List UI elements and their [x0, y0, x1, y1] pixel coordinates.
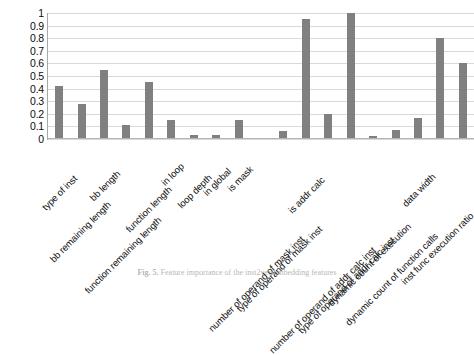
bar	[235, 120, 243, 139]
y-axis-tick-label: 0	[0, 134, 44, 145]
bar	[55, 86, 63, 139]
bar-slot	[115, 13, 137, 139]
bar	[459, 63, 467, 139]
y-axis-tick-label: 0.1	[0, 121, 44, 132]
x-axis-category-label: in loop	[160, 161, 186, 187]
bar-series	[48, 13, 474, 139]
x-axis-category-label: type of inst	[41, 174, 80, 213]
bar	[78, 104, 86, 139]
bar-slot	[160, 13, 182, 139]
y-axis-tick-label: 0.9	[0, 20, 44, 31]
figure-caption: Fig. 5. Feature importance of the inst2v…	[0, 268, 474, 281]
x-axis-category-label: data width	[400, 172, 437, 209]
bar-slot	[70, 13, 92, 139]
caption-prefix: Fig. 5.	[137, 268, 158, 277]
bar	[100, 70, 108, 139]
bar-slot	[452, 13, 474, 139]
bar	[414, 118, 422, 139]
bar-slot	[227, 13, 249, 139]
y-axis-tick-label: 0.2	[0, 109, 44, 120]
bar	[347, 13, 355, 139]
bar	[122, 125, 130, 139]
bar-slot	[93, 13, 115, 139]
bar-slot	[183, 13, 205, 139]
x-axis-category-label: is addr calc	[286, 175, 326, 215]
bar	[324, 114, 332, 139]
bar-slot	[295, 13, 317, 139]
y-axis-tick-label: 0.6	[0, 58, 44, 69]
plot-area	[48, 13, 474, 139]
bar	[302, 19, 310, 139]
y-axis-tick-label: 0.8	[0, 33, 44, 44]
bar-slot	[205, 13, 227, 139]
bar-slot	[339, 13, 361, 139]
y-axis-tick-label: 0.7	[0, 46, 44, 57]
x-axis-category-label: is mask	[226, 164, 255, 193]
caption-text: Feature importance of the inst2vec embed…	[161, 268, 337, 277]
bar-slot	[272, 13, 294, 139]
bar-slot	[407, 13, 429, 139]
x-axis-category-label: bb length	[88, 169, 122, 203]
bar-slot	[429, 13, 451, 139]
bar	[436, 38, 444, 139]
bar-slot	[250, 13, 272, 139]
bar-slot	[48, 13, 70, 139]
bar-slot	[138, 13, 160, 139]
y-axis-tick-label: 1	[0, 8, 44, 19]
y-axis-tick-labels: 10.90.80.70.60.50.40.30.20.10	[0, 13, 44, 139]
y-axis-tick-label: 0.3	[0, 96, 44, 107]
y-axis-tick-label: 0.4	[0, 83, 44, 94]
bar	[167, 120, 175, 139]
bar	[145, 82, 153, 139]
bar-slot	[384, 13, 406, 139]
bar-slot	[362, 13, 384, 139]
x-axis-category-label: bb remaining length	[48, 200, 113, 265]
x-axis-baseline	[48, 138, 474, 139]
x-axis-category-labels: type of instbb remaining lengthbb length…	[48, 140, 474, 250]
bar-slot	[317, 13, 339, 139]
y-axis-tick-label: 0.5	[0, 71, 44, 82]
